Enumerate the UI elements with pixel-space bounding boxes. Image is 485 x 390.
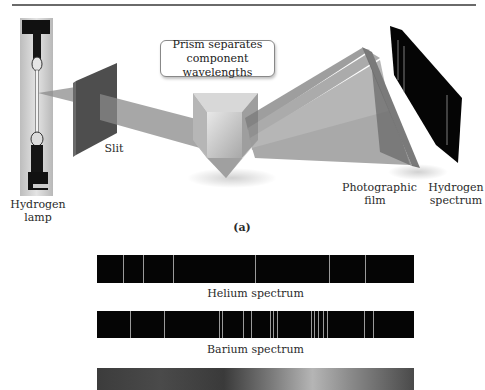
callout-line-1: Prism separates: [161, 38, 274, 52]
callout-line-2: component wavelengths: [161, 52, 274, 80]
emission-line: [251, 311, 252, 338]
emission-line: [130, 311, 131, 338]
label-line: lamp: [10, 211, 66, 224]
emission-line: [143, 255, 144, 283]
emission-line: [311, 311, 312, 338]
emission-line: [329, 255, 330, 283]
hydrogen-lamp: [20, 18, 53, 196]
emission-line: [373, 311, 374, 338]
emission-line: [365, 255, 366, 283]
emission-line: [270, 311, 271, 338]
emission-line: [123, 255, 124, 283]
emission-line: [364, 311, 365, 338]
prism-callout: Prism separates component wavelengths: [160, 40, 275, 77]
emission-line: [318, 311, 319, 338]
label-line: film: [342, 194, 408, 207]
barium-spectrum-bar: [97, 311, 414, 338]
emission-line: [314, 311, 315, 338]
barium-spectrum-label: Barium spectrum: [97, 343, 414, 356]
continuous-spectrum-bar: [97, 368, 414, 390]
slit-label: Slit: [102, 142, 126, 155]
emission-line: [273, 311, 274, 338]
emission-line: [327, 311, 328, 338]
emission-line: [173, 255, 174, 283]
label-line: Hydrogen: [428, 181, 484, 194]
hydrogen-lamp-label: Hydrogen lamp: [10, 198, 66, 224]
emission-line: [243, 311, 244, 338]
hydrogen-spectrum-label: Hydrogen spectrum: [428, 181, 484, 207]
prism: [193, 93, 258, 178]
label-line: Hydrogen: [10, 198, 66, 211]
collimated-beam: [100, 94, 200, 148]
emission-line: [323, 311, 324, 338]
emission-line: [164, 311, 165, 338]
emission-line: [222, 311, 223, 338]
emission-line: [219, 311, 220, 338]
emission-line: [255, 255, 256, 283]
label-line: Photographic: [342, 181, 408, 194]
emission-line: [277, 311, 278, 338]
label-line: spectrum: [428, 194, 484, 207]
part-label: (a): [232, 221, 252, 234]
photographic-film-label: Photographic film: [342, 181, 408, 207]
helium-spectrum-bar: [97, 255, 414, 283]
helium-spectrum-label: Helium spectrum: [97, 287, 414, 300]
